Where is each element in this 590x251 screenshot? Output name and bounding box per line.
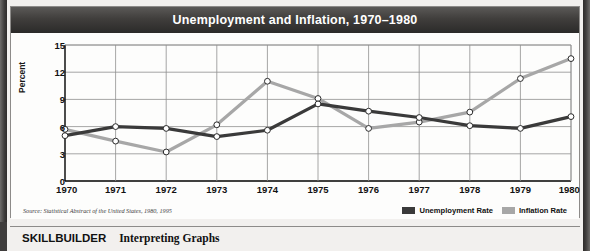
skillbuilder-heading: SKILLBUILDER Interpreting Graphs bbox=[22, 232, 220, 244]
chart-source-note: Source: Statistical Abstract of the Unit… bbox=[23, 207, 172, 214]
x-tick-label: 1979 bbox=[510, 184, 531, 195]
chart-title-bar: Unemployment and Inflation, 1970–1980 bbox=[11, 7, 579, 33]
x-tick-label: 1974 bbox=[257, 184, 278, 195]
x-tick-label: 1976 bbox=[358, 184, 379, 195]
x-tick-label: 1972 bbox=[156, 184, 177, 195]
chart-legend: Unemployment RateInflation Rate bbox=[402, 206, 567, 215]
x-tick-label: 1970 bbox=[56, 184, 77, 195]
y-tick-label: 15 bbox=[43, 40, 65, 51]
y-tick-label: 3 bbox=[43, 148, 65, 159]
skillbuilder-topic: Interpreting Graphs bbox=[119, 232, 219, 244]
x-tick-label: 1975 bbox=[307, 184, 328, 195]
chart-plot-area: Percent 03691215 19701971197219731974197… bbox=[11, 33, 579, 219]
y-tick-label: 6 bbox=[43, 121, 65, 132]
legend-label: Inflation Rate bbox=[519, 206, 567, 215]
x-tick-label: 1971 bbox=[105, 184, 126, 195]
legend-swatch-icon bbox=[402, 207, 415, 214]
page-root: Unemployment and Inflation, 1970–1980 Pe… bbox=[0, 0, 590, 251]
y-tick-label: 12 bbox=[43, 67, 65, 78]
x-tick-label: 1977 bbox=[409, 184, 430, 195]
skillbuilder-label: SKILLBUILDER bbox=[22, 232, 106, 244]
chart-title: Unemployment and Inflation, 1970–1980 bbox=[173, 13, 418, 27]
x-tick-label: 1973 bbox=[206, 184, 227, 195]
legend-label: Unemployment Rate bbox=[419, 206, 492, 215]
page-right-rail bbox=[583, 0, 590, 251]
legend-item: Inflation Rate bbox=[502, 206, 567, 215]
x-axis-ticks: 1970197119721973197419751976197719781979… bbox=[11, 184, 579, 200]
legend-item: Unemployment Rate bbox=[402, 206, 492, 215]
footer-left-rail bbox=[0, 222, 7, 251]
chart-figure: Unemployment and Inflation, 1970–1980 Pe… bbox=[10, 6, 580, 218]
legend-swatch-icon bbox=[502, 207, 515, 214]
x-tick-label: 1980 bbox=[559, 184, 580, 195]
page-footer: SKILLBUILDER Interpreting Graphs bbox=[10, 226, 580, 251]
y-tick-label: 9 bbox=[43, 94, 65, 105]
x-tick-label: 1978 bbox=[459, 184, 480, 195]
page-left-rail bbox=[0, 0, 7, 251]
